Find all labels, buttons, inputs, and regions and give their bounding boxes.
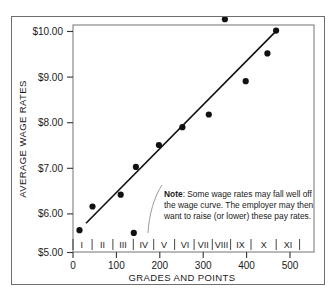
x-axis-title: GRADES AND POINTS [128,272,235,283]
y-tick-labels: $10.00 $9.00 $8.00 $7.00 $6.00 $5.00 [32,26,63,258]
grade-label: XI [284,240,293,250]
grade-label: X [261,240,267,250]
x-tick-label: 400 [238,260,255,271]
x-tick-label: 0 [70,260,76,271]
x-tick-label: 200 [151,260,168,271]
grade-labels: I II III IV V VI VII VIII IX X XI [80,240,292,250]
y-tick-label: $10.00 [32,26,63,37]
data-point [89,203,95,209]
y-tick-label: $8.00 [38,117,63,128]
x-tick-labels: 0 100 200 300 400 500 [70,260,299,271]
callout-leader-line [148,185,162,233]
grade-label: III [119,240,127,250]
y-tick-label: $5.00 [38,247,63,258]
note-body-text: Some wage rates may fall well off the wa… [164,189,313,221]
grade-label: I [80,240,83,250]
data-point [264,50,270,56]
data-point [206,111,212,117]
y-axis-title: AVERAGE WAGE RATES [17,80,28,197]
data-point [179,124,185,130]
wage-curve-chart: $10.00 $9.00 $8.00 $7.00 $6.00 $5.00 AVE… [12,17,323,283]
grade-label: IX [236,240,245,250]
grade-label: II [100,240,105,250]
data-point [243,78,249,84]
y-tick-label: $9.00 [38,72,63,83]
note-lead-label: Note [164,189,183,199]
data-point [156,142,162,148]
x-tick-label: 100 [108,260,125,271]
x-axis-ticks [73,252,290,258]
data-point-outlier-low [131,230,137,236]
grade-label: VI [181,240,190,250]
y-axis-ticks [67,32,73,253]
figure-frame: $10.00 $9.00 $8.00 $7.00 $6.00 $5.00 AVE… [11,16,325,285]
note-callout: Note: Some wage rates may fall well off … [164,189,324,223]
data-point [273,28,279,34]
x-tick-label: 300 [195,260,212,271]
data-point [76,227,82,233]
y-tick-label: $7.00 [38,163,63,174]
y-tick-label: $6.00 [38,208,63,219]
x-tick-label: 500 [282,260,299,271]
grade-label: IV [140,240,149,250]
grade-label: VII [198,240,209,250]
data-point-outlier-high [222,17,228,22]
grade-label: V [161,240,167,250]
data-point [118,192,124,198]
grade-label: VIII [215,240,229,250]
data-point [133,164,139,170]
